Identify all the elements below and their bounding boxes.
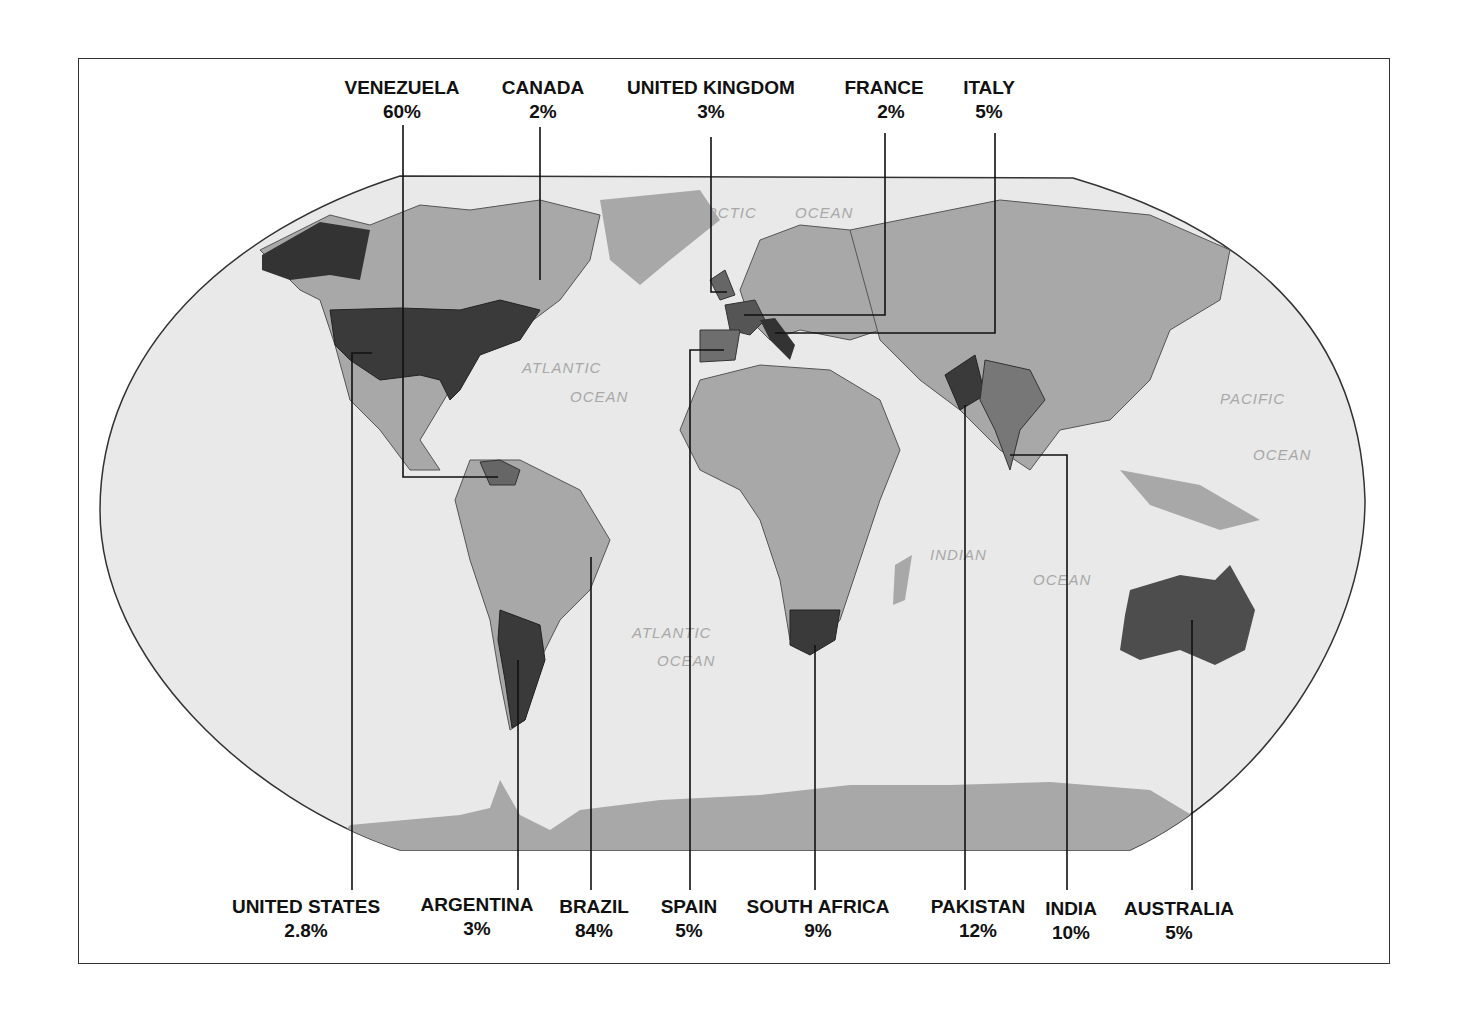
atlantic-south-label: ATLANTIC [631, 624, 711, 641]
label-argentina: ARGENTINA3% [421, 893, 534, 941]
atlantic-south-label-2: OCEAN [657, 652, 715, 669]
label-united-states: UNITED STATES2.8% [232, 895, 380, 943]
label-australia: AUSTRALIA5% [1124, 897, 1234, 945]
label-canada: CANADA2% [502, 76, 584, 124]
atlantic-north-label-2: OCEAN [570, 388, 628, 405]
label-pakistan: PAKISTAN12% [931, 895, 1025, 943]
arctic-label-2: OCEAN [795, 204, 853, 221]
label-united-kingdom: UNITED KINGDOM3% [627, 76, 795, 124]
spain [700, 330, 740, 362]
label-spain: SPAIN5% [661, 895, 718, 943]
label-brazil: BRAZIL84% [559, 895, 629, 943]
arctic-label: ARCTIC [694, 204, 757, 221]
pacific-label: PACIFIC [1220, 390, 1285, 407]
label-south-africa: SOUTH AFRICA9% [747, 895, 890, 943]
pacific-label-2: OCEAN [1253, 446, 1311, 463]
label-italy: ITALY5% [963, 76, 1015, 124]
atlantic-north-label: ATLANTIC [521, 359, 601, 376]
indian-label-2: OCEAN [1033, 571, 1091, 588]
label-india: INDIA10% [1045, 897, 1097, 945]
label-france: FRANCE2% [844, 76, 923, 124]
label-venezuela: VENEZUELA60% [344, 76, 459, 124]
indian-label: INDIAN [930, 546, 987, 563]
world-map: ARCTIC OCEAN ATLANTIC OCEAN ATLANTIC OCE… [0, 0, 1459, 1023]
